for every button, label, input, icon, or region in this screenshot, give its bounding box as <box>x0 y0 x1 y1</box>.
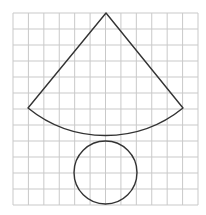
grid-paper <box>13 13 198 205</box>
cone-net-figure <box>0 0 206 215</box>
figure-svg <box>0 0 206 215</box>
